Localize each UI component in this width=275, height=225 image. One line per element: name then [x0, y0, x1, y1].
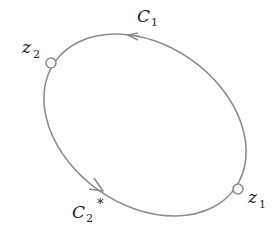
label-z1: z1: [247, 187, 266, 211]
label-c2star: C2*: [72, 196, 104, 225]
node-z1: [233, 184, 243, 194]
contour-diagram: C1 z2 C2* z1: [0, 0, 275, 225]
node-z2: [46, 58, 56, 68]
label-c1: C1: [137, 6, 158, 29]
label-z2: z2: [21, 37, 40, 61]
